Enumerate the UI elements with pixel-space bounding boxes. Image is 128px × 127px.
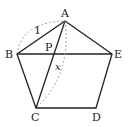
pentagon-outline — [17, 21, 112, 108]
length-label-ab: 1 — [34, 24, 41, 37]
vertex-label-b: B — [5, 48, 13, 61]
vertex-label-e: E — [114, 48, 122, 61]
vertex-label-d: D — [92, 111, 101, 124]
length-label-ac: x — [55, 61, 61, 72]
intersection-label-p: P — [45, 41, 53, 54]
vertex-label-c: C — [31, 111, 39, 124]
pentagon-svg: A B E C D P 1 x — [0, 0, 128, 127]
vertex-label-a: A — [60, 7, 70, 20]
pentagon-diagram: A B E C D P 1 x — [0, 0, 128, 127]
